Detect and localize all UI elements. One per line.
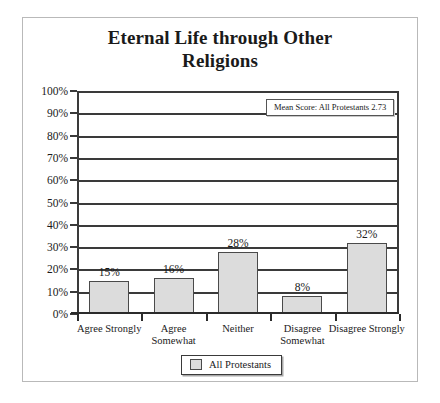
- bar: [347, 243, 387, 314]
- chart-title-line-2: Religions: [23, 49, 417, 72]
- x-axis-baseline: [71, 312, 399, 314]
- y-tick-mark: [70, 157, 77, 159]
- bar-value-label: 15%: [99, 266, 120, 278]
- x-tick-mark: [270, 314, 272, 321]
- y-tick-label: 30%: [47, 241, 68, 253]
- bar-slot: 8%: [270, 91, 334, 314]
- y-tick-label: 50%: [47, 197, 68, 209]
- bar-slot: 28%: [206, 91, 270, 314]
- y-tick-label: 100%: [41, 85, 68, 97]
- chart-legend: All Protestants: [181, 355, 282, 375]
- x-tick-mark: [77, 314, 79, 321]
- mean-score-annotation: Mean Score: All Protestants 2.73: [266, 99, 394, 116]
- legend-label-all-protestants: All Protestants: [209, 359, 271, 370]
- x-tick-mark: [335, 314, 337, 321]
- y-tick-label: 40%: [47, 219, 68, 231]
- y-tick-label: 0%: [53, 308, 68, 320]
- bar-slot: 16%: [141, 91, 205, 314]
- y-tick-mark: [70, 179, 77, 181]
- bar-value-label: 32%: [356, 228, 377, 240]
- chart-title-line-1: Eternal Life through Other: [23, 26, 417, 49]
- chart-title: Eternal Life through Other Religions: [23, 26, 417, 72]
- chart-card: Eternal Life through Other Religions 100…: [22, 17, 418, 382]
- plot-area: 100%90%80%70%60%50%40%30%20%10%0% 15%16%…: [77, 91, 399, 314]
- x-tick-mark: [141, 314, 143, 321]
- category-label: Disagree Strongly: [328, 323, 406, 335]
- y-tick-label: 80%: [47, 130, 68, 142]
- bar: [218, 252, 258, 314]
- y-tick-label: 20%: [47, 263, 68, 275]
- bar: [154, 278, 194, 314]
- bar-slot: 15%: [77, 91, 141, 314]
- y-tick-label: 60%: [47, 174, 68, 186]
- y-tick-mark: [70, 112, 77, 114]
- bar-series-all-protestants: 15%16%28%8%32%: [77, 91, 399, 314]
- y-tick-mark: [70, 90, 77, 92]
- bar-value-label: 8%: [295, 281, 310, 293]
- bar: [89, 281, 129, 314]
- y-tick-mark: [70, 224, 77, 226]
- y-tick-mark: [70, 291, 77, 293]
- legend-swatch-all-protestants: [190, 359, 202, 370]
- x-tick-mark: [206, 314, 208, 321]
- bar-value-label: 28%: [227, 237, 248, 249]
- y-tick-mark: [70, 135, 77, 137]
- x-tick-mark: [399, 314, 401, 321]
- y-tick-mark: [70, 202, 77, 204]
- y-tick-label: 90%: [47, 107, 68, 119]
- y-tick-label: 10%: [47, 286, 68, 298]
- y-tick-mark: [70, 246, 77, 248]
- y-tick-mark: [70, 268, 77, 270]
- bar-slot: 32%: [335, 91, 399, 314]
- bar-value-label: 16%: [163, 263, 184, 275]
- y-tick-label: 70%: [47, 152, 68, 164]
